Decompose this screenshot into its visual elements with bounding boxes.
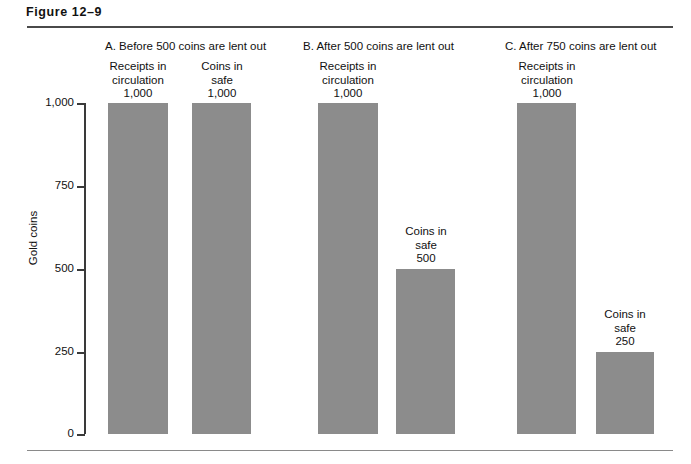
panel-c-bar-1-label-line1: Receipts in [507,60,587,74]
y-axis-tick-250 [77,352,85,354]
chart-plot-area: 1,000 750 500 250 0 Gold coins A. Before… [0,0,691,464]
footer-divider [27,450,673,451]
panel-a-bar-1-label-line2: circulation [98,74,178,88]
y-axis-tick-750 [77,186,85,188]
y-axis-tick-row-250: 250 [0,345,74,359]
panel-a-bar-2-label-line1: Coins in [182,60,262,74]
figure-container: Figure 12–9 1,000 750 500 250 0 Gold coi… [0,0,691,464]
y-axis-tick-row-1000: 1,000 [0,96,74,110]
y-axis-tick-row-750: 750 [0,179,74,193]
y-axis-tick-label-750: 750 [55,179,74,191]
panel-b-bar-1-label-line2: circulation [308,74,388,88]
y-axis-tick-label-250: 250 [55,345,74,357]
panel-a-heading: A. Before 500 coins are lent out [105,40,266,52]
y-axis-title: Gold coins [27,200,39,276]
panel-b-bar-2-value: 500 [386,252,466,266]
panel-b-bar-coins-in-safe[interactable] [396,269,455,434]
panel-a-bar-1-label-line1: Receipts in [98,60,178,74]
panel-b-bar-1-label: Receipts in circulation 1,000 [308,60,388,101]
panel-c-bar-coins-in-safe[interactable] [596,352,654,434]
panel-c-heading: C. After 750 coins are lent out [505,40,657,52]
panel-a-bar-2-value: 1,000 [182,87,262,101]
panel-c-bar-1-label: Receipts in circulation 1,000 [507,60,587,101]
y-axis-tick-500 [77,269,85,271]
panel-b-bar-2-label: Coins in safe 500 [386,225,466,266]
y-axis-tick-1000 [77,103,85,105]
panel-a-bar-1-value: 1,000 [98,87,178,101]
panel-b-bar-1-value: 1,000 [308,87,388,101]
panel-a-bar-2-label-line2: safe [182,74,262,88]
panel-a-bar-1-label: Receipts in circulation 1,000 [98,60,178,101]
panel-b-bar-2-label-line1: Coins in [386,225,466,239]
y-axis-tick-label-500: 500 [55,262,74,274]
panel-b-bar-2-label-line2: safe [386,239,466,253]
panel-b-heading: B. After 500 coins are lent out [303,40,454,52]
panel-c-bar-1-value: 1,000 [507,87,587,101]
y-axis-tick-label-0: 0 [68,427,74,439]
panel-a-bar-2-label: Coins in safe 1,000 [182,60,262,101]
panel-a-bar-receipts-in-circulation[interactable] [108,103,168,434]
panel-b-bar-receipts-in-circulation[interactable] [318,103,378,434]
panel-c-bar-2-value: 250 [585,335,665,349]
y-axis-tick-0 [77,434,85,436]
y-axis-tick-row-0: 0 [0,427,74,441]
panel-a-bar-coins-in-safe[interactable] [192,103,251,434]
panel-c-bar-2-label-line2: safe [585,322,665,336]
panel-c-bar-1-label-line2: circulation [507,74,587,88]
panel-b-bar-1-label-line1: Receipts in [308,60,388,74]
panel-c-bar-2-label: Coins in safe 250 [585,308,665,349]
panel-c-bar-2-label-line1: Coins in [585,308,665,322]
panel-c-bar-receipts-in-circulation[interactable] [517,103,576,434]
y-axis-tick-label-1000: 1,000 [45,96,74,108]
